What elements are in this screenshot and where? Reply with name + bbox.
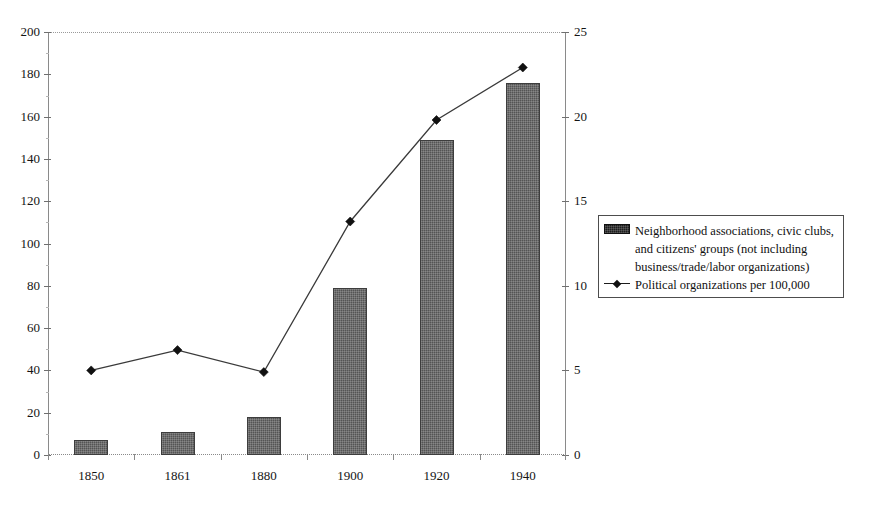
legend-entry-bar-series: Neighborhood associations, civic clubs, … (604, 221, 837, 275)
legend-bar-label-line-3: business/trade/labor organizations) (635, 260, 809, 274)
left-axis-tick-label: 160 (0, 110, 40, 123)
left-axis-tick-label: 0 (0, 448, 40, 461)
chart-figure: 0 20 40 60 80 100 120 140 160 180 200 0 (0, 0, 870, 522)
right-axis-tick-label: 0 (574, 448, 634, 461)
line-marker-1880 (259, 368, 268, 377)
legend-bar-label-line-1: Neighborhood associations, civic clubs, (635, 224, 834, 238)
left-axis-tick-label: 120 (0, 194, 40, 207)
x-axis-label-1900: 1900 (315, 469, 385, 483)
right-axis-tick-label: 5 (574, 363, 634, 376)
x-axis-label-1861: 1861 (143, 469, 213, 483)
left-axis-tick-label: 60 (0, 321, 40, 334)
line-marker-1861 (173, 346, 182, 355)
x-axis-label-1920: 1920 (402, 469, 472, 483)
chart-legend: Neighborhood associations, civic clubs, … (598, 215, 844, 298)
left-axis-tick-label: 20 (0, 406, 40, 419)
right-axis-tick-label: 20 (574, 110, 634, 123)
line-path (91, 68, 523, 373)
x-axis-label-1850: 1850 (56, 469, 126, 483)
legend-line-marker-icon (604, 278, 630, 290)
left-axis-tick-label: 140 (0, 152, 40, 165)
left-axis-tick-label: 200 (0, 25, 40, 38)
x-axis-label-1880: 1880 (229, 469, 299, 483)
left-axis-tick-label: 100 (0, 237, 40, 250)
legend-bar-label-line-2: and citizens' groups (not including (635, 242, 807, 256)
left-axis-tick-label: 80 (0, 279, 40, 292)
right-axis-tick-label: 15 (574, 194, 634, 207)
legend-line-label: Political organizations per 100,000 (635, 275, 837, 293)
right-axis-tick-label: 25 (574, 25, 634, 38)
x-axis-label-1940: 1940 (488, 469, 558, 483)
legend-bar-swatch-icon (604, 224, 630, 234)
line-marker-1940 (518, 63, 527, 72)
plot-area: 0 20 40 60 80 100 120 140 160 180 200 0 (48, 32, 566, 455)
left-axis-tick-label: 180 (0, 67, 40, 80)
line-marker-1850 (87, 366, 96, 375)
legend-bar-label: Neighborhood associations, civic clubs, … (635, 221, 837, 275)
left-axis-tick-label: 40 (0, 363, 40, 376)
legend-entry-line-series: Political organizations per 100,000 (604, 275, 837, 293)
legend-line-label-line-1: Political organizations per 100,000 (635, 278, 810, 292)
political-organizations-line-series (48, 32, 566, 455)
